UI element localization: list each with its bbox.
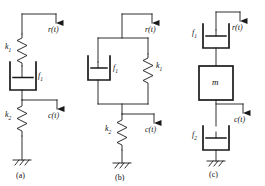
panel-b-spring-k1 <box>143 54 153 104</box>
caption-panel-b: (b) <box>115 173 124 182</box>
label-k1-panel-a: k1 <box>5 43 11 53</box>
label-k1-panel-b: k1 <box>156 62 162 72</box>
panel-b-graphics <box>88 14 154 168</box>
label-output-panel-a: c(t) <box>48 112 59 120</box>
panel-c-ground-hatch <box>209 161 223 166</box>
panel-a-graphics <box>10 14 57 165</box>
panel-a-damper-cylinder <box>10 62 36 90</box>
label-output-panel-c: c(t) <box>234 116 245 124</box>
label-k2-panel-b: k2 <box>105 125 111 135</box>
caption-panel-a: (a) <box>16 171 25 180</box>
panel-a-spring-k1 <box>17 34 27 66</box>
label-f1-panel-b: f1 <box>113 64 118 74</box>
label-k2-panel-a: k2 <box>5 111 11 121</box>
label-output-panel-b: c(t) <box>145 126 156 134</box>
label-f1-panel-c: f1 <box>192 29 197 39</box>
caption-panel-c: (c) <box>209 170 218 179</box>
label-input-panel-b: r(t) <box>145 26 156 34</box>
mechanical-network-figure: k1 f1 k2 r(t) c(t) (a) f1 k1 k2 r(t) c(t… <box>0 0 265 186</box>
label-mass-panel-c: m <box>212 78 219 87</box>
label-f1-panel-a: f1 <box>38 72 43 82</box>
panel-b-ground-hatch <box>115 163 129 168</box>
panel-c-graphics <box>199 12 243 166</box>
label-input-panel-c: r(t) <box>232 24 243 32</box>
panel-a-ground-hatch <box>15 160 29 165</box>
panel-b-spring-k2 <box>117 114 127 150</box>
diagram-canvas <box>0 0 265 186</box>
panel-a-spring-k2 <box>17 100 27 136</box>
label-input-panel-a: r(t) <box>48 26 59 34</box>
label-f2-panel-c: f2 <box>192 131 197 141</box>
